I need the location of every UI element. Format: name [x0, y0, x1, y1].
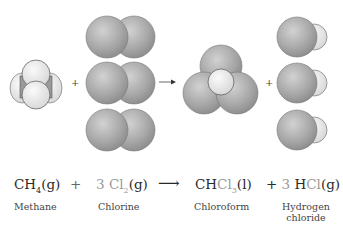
- methane-label: Methane: [14, 201, 57, 212]
- chloroform-label: Chloroform: [194, 201, 249, 212]
- plus-sign: +: [71, 77, 79, 88]
- plus-sign: +: [265, 77, 273, 88]
- hydrogen-chloride-molecules: [277, 17, 327, 150]
- reaction-arrow: [159, 80, 176, 85]
- chlorine-molecules: [86, 16, 155, 151]
- reaction-arrow-text: ⟶: [158, 174, 180, 192]
- hydrogen-chloride-label-line1: Hydrogen: [281, 201, 331, 212]
- hcl-formula: + 3 HCl(g): [266, 176, 340, 192]
- methane-molecule: [10, 60, 62, 109]
- space-filling-models: + +: [0, 0, 343, 160]
- plus-sign: +: [70, 176, 81, 192]
- chlorine-label: Chlorine: [98, 201, 139, 212]
- hydrogen-chloride-label: Hydrogen chloride: [281, 201, 331, 223]
- methane-formula: CH4(g): [14, 176, 60, 195]
- chloroform-molecule: [183, 45, 258, 114]
- hydrogen-chloride-label-line2: chloride: [281, 212, 331, 223]
- chloroform-formula: CHCl3(l): [195, 176, 252, 195]
- chlorine-formula: 3 Cl2(g): [96, 176, 148, 195]
